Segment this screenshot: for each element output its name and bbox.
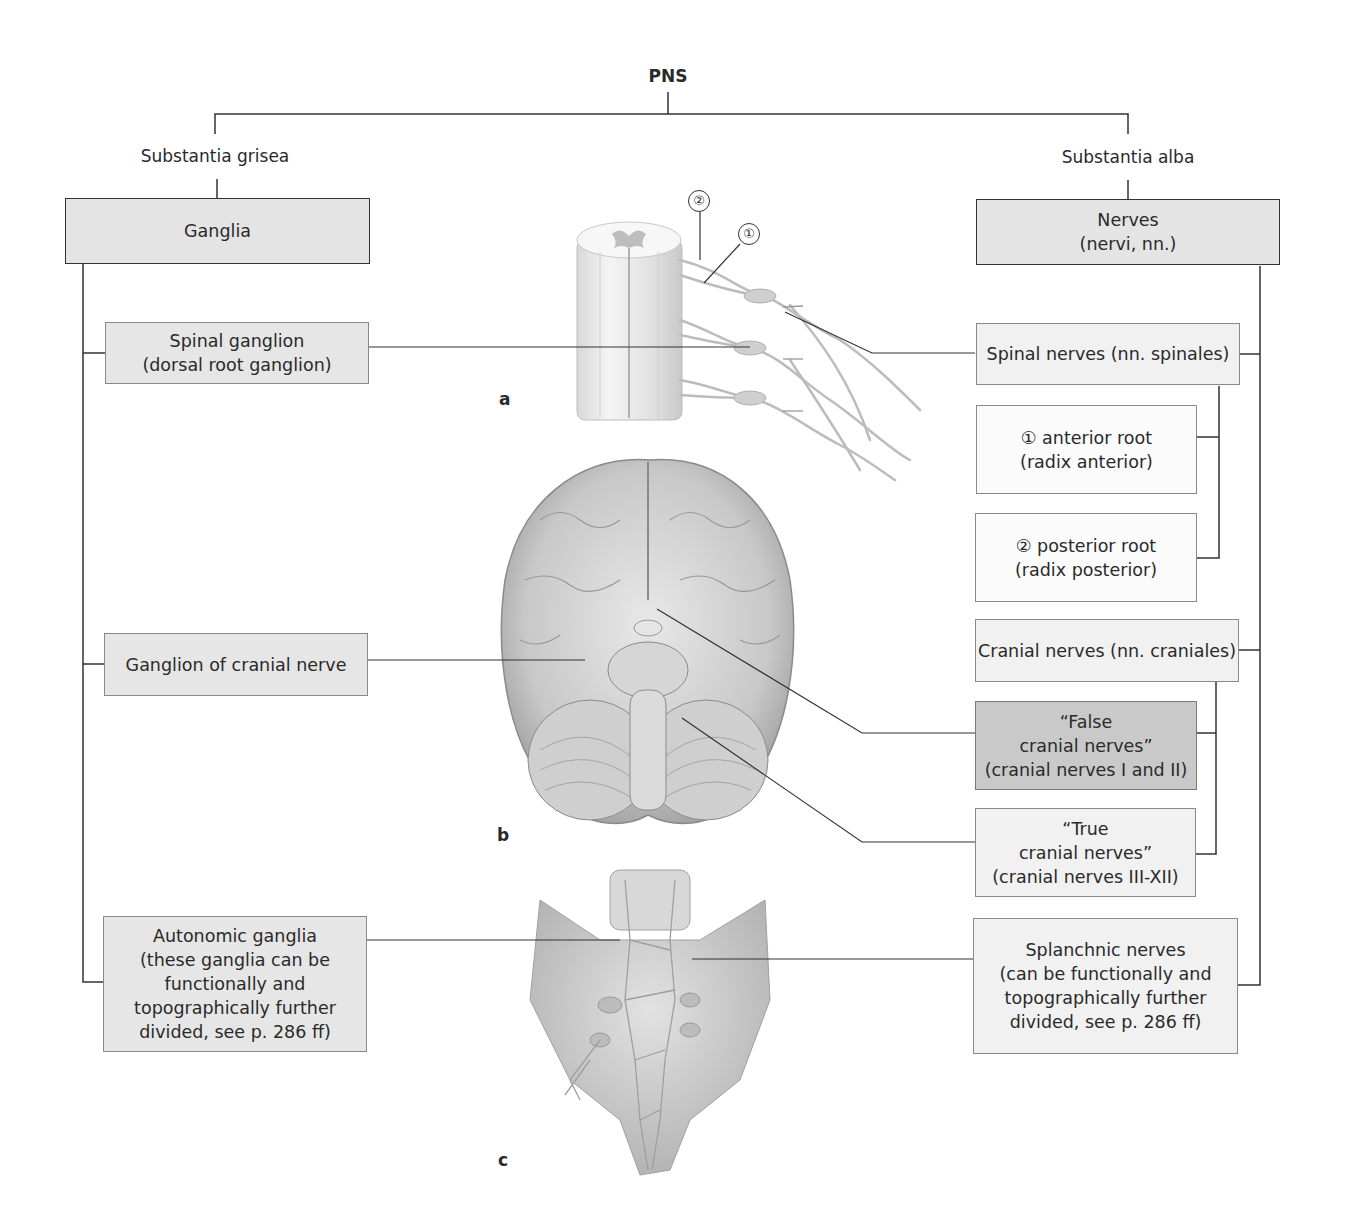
splanchnic-nerves-box: Splanchnic nerves (can be functionally a… [973, 918, 1238, 1054]
anterior-root-box: ① anterior root (radix anterior) [976, 405, 1197, 494]
true-cranial-nerves-box: “True cranial nerves” (cranial nerves II… [975, 808, 1196, 897]
sacrum-illustration [530, 870, 770, 1175]
right-heading: Substantia alba [1040, 147, 1216, 167]
left-heading: Substantia grisea [120, 146, 310, 166]
figure-label-a: a [499, 389, 510, 409]
figure-label-c: c [498, 1150, 508, 1170]
spinal-nerves-box: Spinal nerves (nn. spinales) [976, 323, 1240, 385]
spinal-cord-illustration [577, 222, 920, 480]
cranial-nerves-box: Cranial nerves (nn. craniales) [975, 619, 1239, 682]
figure-label-b: b [497, 825, 509, 845]
marker-2-posterior-root: ② [688, 190, 710, 212]
nerves-box: Nerves (nervi, nn.) [976, 199, 1280, 265]
ganglia-box: Ganglia [65, 198, 370, 264]
marker-1-anterior-root: ① [738, 223, 760, 245]
autonomic-ganglia-box: Autonomic ganglia (these ganglia can be … [103, 916, 367, 1052]
spinal-ganglion-box: Spinal ganglion (dorsal root ganglion) [105, 322, 369, 384]
brain-illustration [501, 460, 793, 824]
posterior-root-box: ② posterior root (radix posterior) [975, 513, 1197, 602]
ganglion-cranial-nerve-box: Ganglion of cranial nerve [104, 633, 368, 696]
root-title: PNS [640, 66, 696, 86]
false-cranial-nerves-box: “False cranial nerves” (cranial nerves I… [975, 701, 1197, 790]
